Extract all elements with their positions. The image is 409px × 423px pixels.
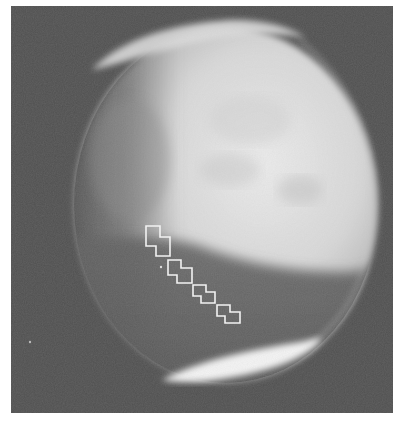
mars-photo bbox=[0, 0, 409, 423]
bright-speck bbox=[160, 266, 162, 268]
bright-speck bbox=[29, 341, 31, 343]
